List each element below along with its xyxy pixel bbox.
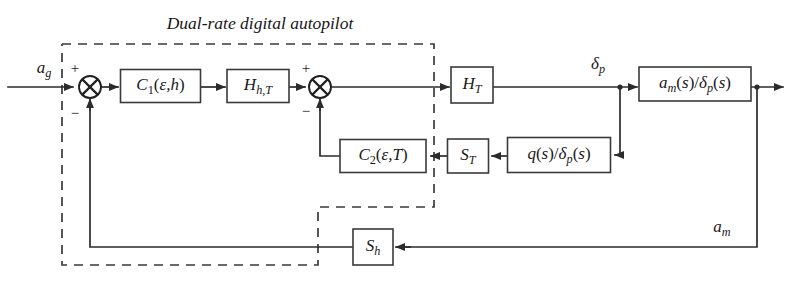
wire-c2-to-sum2 (320, 104, 339, 156)
plant-q-over-deltap-label: q(s)/δp(s) (527, 145, 590, 165)
controller-c1-label: C1(ε,h) (136, 76, 184, 96)
plant-am-over-deltap-label: am(s)/δp(s) (659, 74, 731, 94)
hold-h-hT-label: Hh,T (244, 76, 272, 96)
sum1-plus-sign: + (71, 61, 79, 76)
hold-hT-label: HT (462, 75, 481, 95)
diagram-title: Dual-rate digital autopilot (167, 13, 354, 34)
junction-dot-deltap (617, 84, 622, 89)
junction-dot-am-output (754, 84, 759, 89)
wire-sh-to-sum1 (90, 104, 352, 247)
sum1-minus-sign: − (71, 106, 79, 121)
sampler-sh-label: Sh (366, 237, 381, 257)
block-diagram-canvas: Dual-rate digital autopilot C1(ε,h) Hh,T… (0, 0, 793, 296)
output-signal-am-label: am (713, 218, 730, 238)
signal-delta-p-label: δp (591, 55, 605, 75)
sum2-plus-sign: + (302, 61, 310, 76)
summing-junction-outer (79, 76, 101, 98)
sum2-minus-sign: − (302, 104, 310, 119)
controller-c2-label: C2(ε,T) (358, 146, 407, 166)
input-signal-ag-label: ag (37, 59, 52, 79)
summing-junction-inner (309, 76, 331, 98)
sampler-sT-label: ST (460, 146, 475, 166)
